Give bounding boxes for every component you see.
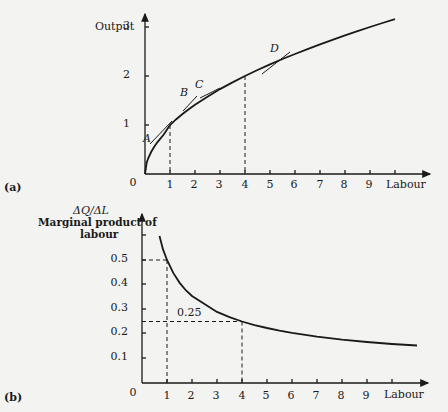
top-xtick: 4 bbox=[242, 178, 249, 191]
bottom-ylabel-line2: Marginal product of bbox=[38, 216, 157, 228]
panel-a-label: (a) bbox=[4, 181, 22, 194]
bottom-origin: 0 bbox=[130, 386, 137, 399]
top-xtick: 3 bbox=[216, 178, 223, 191]
chart-graphics bbox=[0, 0, 448, 412]
tangent-d bbox=[262, 52, 290, 74]
bottom-xtick: 1 bbox=[164, 389, 171, 402]
top-ytick-3: 3 bbox=[100, 19, 130, 32]
bottom-xtick: 7 bbox=[313, 389, 320, 402]
top-xtick: 1 bbox=[167, 178, 174, 191]
bottom-xlabel: Labour bbox=[384, 388, 424, 401]
bottom-xtick: 6 bbox=[288, 389, 295, 402]
top-xtick: 7 bbox=[317, 178, 324, 191]
point-a-label: A bbox=[143, 132, 151, 145]
top-ytick-2: 2 bbox=[100, 68, 130, 81]
bottom-xtick: 4 bbox=[239, 389, 246, 402]
tangent-a bbox=[150, 121, 172, 144]
bottom-ytick: 0.5 bbox=[98, 252, 128, 265]
top-ytick-1: 1 bbox=[100, 117, 130, 130]
bottom-xtick: 2 bbox=[188, 389, 195, 402]
figure: Output 3 2 1 A B C D 0 1 2 3 4 5 6 7 8 9… bbox=[0, 0, 448, 412]
bottom-ytick: 0.2 bbox=[98, 325, 128, 338]
bottom-ytick: 0.1 bbox=[98, 350, 128, 363]
bottom-axes bbox=[142, 214, 428, 383]
marginal-product-curve bbox=[160, 236, 418, 346]
top-xtick: 2 bbox=[191, 178, 198, 191]
top-origin: 0 bbox=[130, 176, 137, 189]
bottom-xtick: 8 bbox=[338, 389, 345, 402]
top-xtick: 6 bbox=[291, 178, 298, 191]
point-c-label: C bbox=[195, 78, 203, 91]
bottom-ytick: 0.3 bbox=[98, 301, 128, 314]
top-xtick: 5 bbox=[267, 178, 274, 191]
bottom-xtick: 3 bbox=[213, 389, 220, 402]
annotation-025: 0.25 bbox=[177, 306, 202, 319]
point-b-label: B bbox=[180, 86, 188, 99]
top-xtick: 8 bbox=[341, 178, 348, 191]
top-xlabel: Labour bbox=[386, 178, 426, 191]
bottom-xtick: 9 bbox=[363, 389, 370, 402]
bottom-ylabel-line3: labour bbox=[80, 228, 118, 240]
panel-b-label: (b) bbox=[4, 391, 22, 404]
bottom-xtick: 5 bbox=[263, 389, 270, 402]
point-d-label: D bbox=[270, 42, 279, 55]
top-xtick: 9 bbox=[366, 178, 373, 191]
bottom-ytick: 0.4 bbox=[98, 276, 128, 289]
bottom-dashed-lines bbox=[142, 260, 242, 383]
